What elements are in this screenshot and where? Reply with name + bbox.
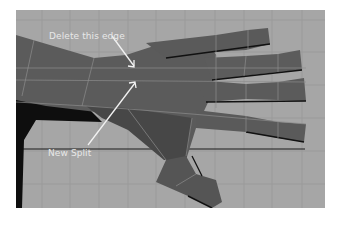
annotation-new-split: New Split: [48, 148, 91, 158]
annotation-delete-edge: Delete this edge: [49, 31, 125, 41]
finger-pinky: [196, 110, 306, 142]
3d-viewport[interactable]: Delete this edge New Split: [16, 10, 325, 208]
finger-thumb: [156, 156, 222, 208]
